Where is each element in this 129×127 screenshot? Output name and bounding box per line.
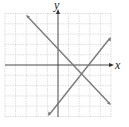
y-axis-label: y bbox=[53, 0, 60, 12]
coordinate-graph: x y bbox=[0, 0, 129, 127]
x-axis-label: x bbox=[114, 58, 121, 72]
axes bbox=[5, 11, 112, 117]
x-axis-arrow bbox=[109, 63, 114, 67]
